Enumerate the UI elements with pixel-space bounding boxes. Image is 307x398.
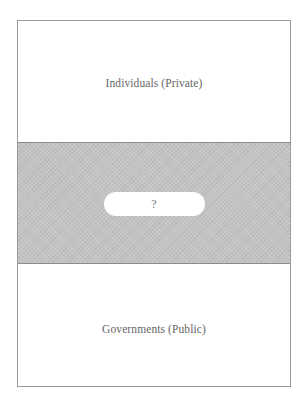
unknown-pill: ? — [104, 192, 205, 216]
diagram-frame: Individuals (Private) ? Governments (Pub… — [17, 20, 291, 387]
public-label: Governments (Public) — [102, 323, 206, 335]
public-section: Governments (Public) — [18, 264, 290, 386]
private-label: Individuals (Private) — [106, 77, 203, 89]
middle-band: ? — [18, 142, 290, 264]
question-mark-label: ? — [151, 197, 156, 212]
private-section: Individuals (Private) — [18, 21, 290, 142]
